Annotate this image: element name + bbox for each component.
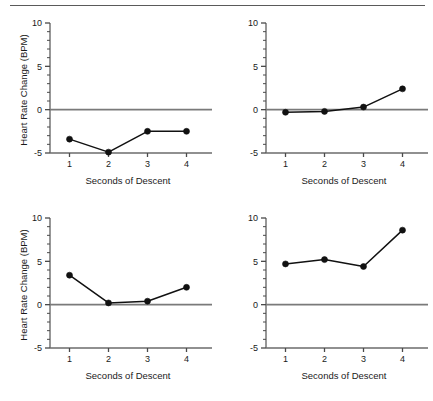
- y-axis-tick-label: 5: [37, 257, 42, 267]
- y-axis-tick-label: -5: [34, 148, 42, 158]
- x-axis-title: Seconds of Descent: [266, 370, 422, 381]
- y-axis-tick-label: -5: [250, 343, 258, 353]
- data-point-marker: [145, 298, 151, 304]
- x-axis-tick-label: 1: [67, 159, 72, 169]
- x-axis-tick-label: 2: [322, 159, 327, 169]
- x-axis-title: Seconds of Descent: [50, 175, 206, 186]
- header-rule: [10, 5, 425, 6]
- data-point-marker: [400, 227, 406, 233]
- x-axis-tick-label: 4: [400, 354, 405, 364]
- x-axis-title: Seconds of Descent: [266, 175, 422, 186]
- data-point-marker: [283, 109, 289, 115]
- data-point-marker: [322, 257, 328, 263]
- y-axis-tick-label: 5: [253, 257, 258, 267]
- y-axis-tick-label: 0: [253, 105, 258, 115]
- x-axis-tick-label: 4: [400, 159, 405, 169]
- data-point-marker: [361, 264, 367, 270]
- x-axis-tick-label: 3: [145, 354, 150, 364]
- y-axis-title: Heart Rate Change (BPM): [18, 25, 29, 155]
- y-axis-tick-label: 10: [32, 213, 42, 223]
- y-axis-tick-label: 0: [253, 300, 258, 310]
- series-line: [70, 131, 187, 152]
- data-point-marker: [283, 261, 289, 267]
- panel-top-right: -505101234Seconds of Descent: [216, 10, 432, 206]
- x-axis-tick-label: 1: [283, 354, 288, 364]
- figure-multi-panel-line-charts: -505101234Seconds of DescentHeart Rate C…: [0, 0, 433, 401]
- data-point-marker: [145, 128, 151, 134]
- x-axis-tick-label: 3: [361, 354, 366, 364]
- y-axis-tick-label: 0: [37, 300, 42, 310]
- x-axis-tick-label: 4: [184, 354, 189, 364]
- x-axis-tick-label: 4: [184, 159, 189, 169]
- panel-bottom-right: -505101234Seconds of Descent: [216, 205, 432, 401]
- x-axis-tick-label: 1: [283, 159, 288, 169]
- y-axis-title: Heart Rate Change (BPM): [18, 220, 29, 350]
- x-axis-tick-label: 2: [322, 354, 327, 364]
- series-line: [286, 230, 403, 266]
- y-axis-tick-label: 10: [248, 18, 258, 28]
- data-point-marker: [184, 284, 190, 290]
- x-axis-tick-label: 2: [106, 159, 111, 169]
- data-point-marker: [361, 104, 367, 110]
- data-point-marker: [322, 108, 328, 114]
- panel-bottom-left: -505101234Seconds of DescentHeart Rate C…: [0, 205, 216, 401]
- y-axis-tick-label: 10: [248, 213, 258, 223]
- y-axis-tick-label: -5: [250, 148, 258, 158]
- x-axis-tick-label: 3: [361, 159, 366, 169]
- x-axis-tick-label: 1: [67, 354, 72, 364]
- x-axis-tick-label: 3: [145, 159, 150, 169]
- y-axis-tick-label: 5: [37, 62, 42, 72]
- x-axis-title: Seconds of Descent: [50, 370, 206, 381]
- data-point-marker: [67, 272, 73, 278]
- data-point-marker: [106, 300, 112, 306]
- data-point-marker: [106, 149, 112, 155]
- x-axis-tick-label: 2: [106, 354, 111, 364]
- series-line: [70, 275, 187, 303]
- y-axis-tick-label: 0: [37, 105, 42, 115]
- y-axis-tick-label: -5: [34, 343, 42, 353]
- panel-top-left: -505101234Seconds of DescentHeart Rate C…: [0, 10, 216, 206]
- series-line: [286, 89, 403, 112]
- y-axis-tick-label: 5: [253, 62, 258, 72]
- data-point-marker: [184, 128, 190, 134]
- data-point-marker: [67, 136, 73, 142]
- y-axis-tick-label: 10: [32, 18, 42, 28]
- data-point-marker: [400, 86, 406, 92]
